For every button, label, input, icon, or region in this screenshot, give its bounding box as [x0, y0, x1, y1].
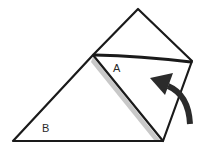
fold-shadow [91, 57, 160, 140]
label-b: B [42, 122, 49, 134]
label-a: A [113, 62, 121, 74]
base-triangle-b [13, 55, 163, 141]
fold-diagram: A B [0, 0, 201, 154]
top-triangle [93, 9, 192, 61]
crease-line [95, 55, 191, 62]
